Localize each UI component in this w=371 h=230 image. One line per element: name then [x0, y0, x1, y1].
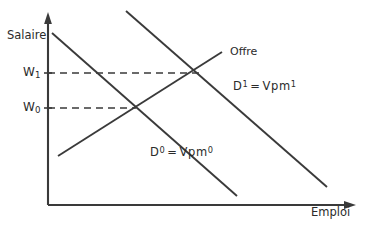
d1-vpm: Vpm	[263, 79, 291, 93]
wage-label-w0-subscript: 0	[35, 105, 41, 115]
wage-label-w0: W0	[23, 101, 40, 115]
d1-equals: =	[248, 79, 262, 93]
demand-curve-d0-label: D0=Vpm0	[150, 146, 214, 159]
wage-label-w1: W1	[23, 66, 40, 80]
demand-curve-d0	[52, 33, 237, 196]
supply-demand-diagram: Salaire Emploi W1 W0 Offre D1=Vpm1 D0=Vp…	[0, 0, 371, 230]
wage-label-w0-base: W	[23, 100, 35, 114]
x-axis-label: Emploi	[311, 207, 350, 219]
d1-vpm-superscript: 1	[291, 79, 297, 89]
y-axis-label: Salaire	[7, 30, 46, 42]
wage-label-w1-subscript: 1	[35, 70, 41, 80]
d0-vpm-superscript: 0	[208, 145, 214, 155]
y-axis-arrowhead	[44, 12, 52, 24]
d0-equals: =	[165, 145, 179, 159]
demand-curve-d1-label: D1=Vpm1	[233, 80, 297, 93]
d0-vpm: Vpm	[180, 145, 208, 159]
x-axis	[48, 201, 356, 209]
wage-label-w1-base: W	[23, 65, 35, 79]
demand-curve-d1	[126, 11, 327, 187]
diagram-canvas	[0, 0, 371, 230]
supply-curve-label: Offre	[230, 46, 257, 57]
supply-curve-offre	[58, 52, 222, 156]
